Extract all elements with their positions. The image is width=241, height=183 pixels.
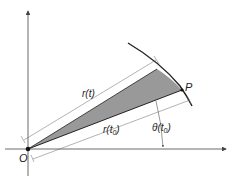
- origin-dot: [26, 147, 31, 152]
- ray-r-t: [28, 69, 157, 149]
- point-p-dot: [180, 88, 183, 91]
- theta-suffix: ): [166, 122, 170, 133]
- shaded-sector: [28, 69, 182, 149]
- theta-t0-label: θ(t0): [152, 122, 171, 134]
- r-t-label: r(t): [82, 88, 95, 99]
- point-p-label: P: [185, 81, 193, 93]
- dimension-tick: [31, 155, 34, 162]
- r-t0-label: r(t0): [103, 124, 120, 136]
- polar-sector-diagram: O P r(t) r(t0) θ(t0): [0, 0, 241, 183]
- ray-r-t0: [28, 90, 182, 149]
- r-t0-suffix: ): [115, 124, 119, 135]
- origin-label: O: [19, 152, 28, 164]
- dimension-tick: [187, 96, 191, 104]
